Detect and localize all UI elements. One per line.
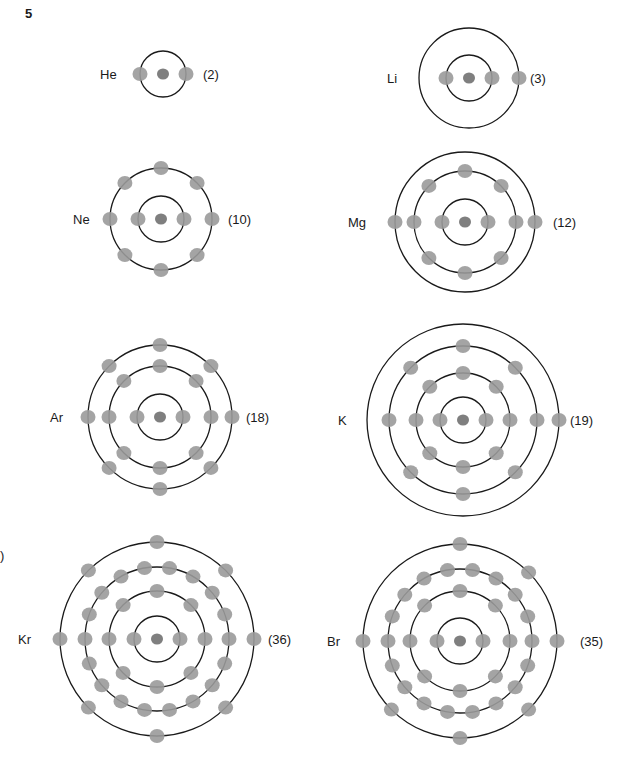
electron <box>508 361 523 375</box>
electron <box>131 212 146 226</box>
electron <box>82 657 97 671</box>
electron <box>103 212 118 226</box>
element-symbol: Mg <box>348 215 366 230</box>
electron <box>422 446 437 460</box>
electron <box>458 266 473 280</box>
electron <box>198 632 213 646</box>
electron <box>356 634 371 648</box>
electron <box>465 563 480 577</box>
electron <box>381 634 396 648</box>
electron-count: (19) <box>570 413 593 428</box>
electron-count: (18) <box>246 410 269 425</box>
electron <box>453 731 468 745</box>
electron <box>508 588 523 602</box>
electron <box>177 212 192 226</box>
electron <box>422 380 437 394</box>
electron <box>116 666 131 680</box>
electron <box>153 482 168 496</box>
electron <box>137 703 152 717</box>
atom-ar: Ar(18) <box>50 338 269 496</box>
element-symbol: K <box>338 413 347 428</box>
electron <box>204 410 219 424</box>
electron <box>150 729 165 743</box>
atom-kr: Kr(36) <box>18 535 291 743</box>
electron <box>525 634 540 648</box>
electron <box>552 413 567 427</box>
nucleus <box>457 415 469 426</box>
electron <box>403 634 418 648</box>
electron <box>153 359 168 373</box>
electron <box>217 657 232 671</box>
electron <box>154 161 169 175</box>
electron <box>407 215 422 229</box>
electron <box>186 694 201 708</box>
electron <box>453 584 468 598</box>
atom-br: Br(35) <box>327 537 603 745</box>
electron <box>509 215 524 229</box>
electron <box>384 703 399 717</box>
electron <box>403 465 418 479</box>
electron <box>488 669 503 683</box>
electron <box>430 634 445 648</box>
electron <box>433 413 448 427</box>
electron <box>150 584 165 598</box>
electron <box>479 413 494 427</box>
nucleus <box>459 217 471 228</box>
element-symbol: He <box>100 67 117 82</box>
electron <box>218 701 233 715</box>
electron <box>205 678 220 692</box>
electron <box>153 338 168 352</box>
electron <box>102 461 117 475</box>
electron <box>189 374 204 388</box>
electron-shell-diagram: 5 ) He(2) Li(3) Ne(10) Mg(12) Ar(18) K(1… <box>0 0 618 777</box>
electron <box>81 410 96 424</box>
electron-count: (10) <box>228 212 251 227</box>
electron <box>488 599 503 613</box>
electron <box>154 263 169 277</box>
electron <box>512 71 527 85</box>
electron <box>102 359 117 373</box>
electron <box>521 565 536 579</box>
electron <box>489 572 504 586</box>
electron <box>186 570 201 584</box>
electron <box>508 680 523 694</box>
electron <box>218 563 233 577</box>
electron <box>385 659 400 673</box>
electron <box>494 251 509 265</box>
electron <box>183 666 198 680</box>
atom-he: He(2) <box>100 51 219 97</box>
electron <box>382 413 397 427</box>
electron <box>456 460 471 474</box>
electron <box>476 634 491 648</box>
electron <box>127 632 142 646</box>
electron <box>150 680 165 694</box>
electron <box>403 361 418 375</box>
element-symbol: Ne <box>73 212 90 227</box>
electron <box>417 696 432 710</box>
electron <box>225 410 240 424</box>
electron-count: (12) <box>553 215 576 230</box>
electron <box>440 563 455 577</box>
electron <box>520 609 535 623</box>
electron <box>481 215 496 229</box>
electron <box>397 588 412 602</box>
electron <box>117 176 132 190</box>
figure-number: 5 <box>25 6 32 21</box>
nucleus <box>154 412 166 423</box>
electron <box>489 446 504 460</box>
electron <box>222 632 237 646</box>
electron <box>176 410 191 424</box>
electron <box>503 634 518 648</box>
electron <box>409 413 424 427</box>
electron <box>417 599 432 613</box>
electron <box>458 164 473 178</box>
element-symbol: Kr <box>18 632 32 647</box>
electron <box>94 678 109 692</box>
electron-count: (3) <box>530 71 546 86</box>
electron <box>183 598 198 612</box>
electron <box>550 634 565 648</box>
electron <box>162 561 177 575</box>
electron <box>102 632 117 646</box>
electron <box>94 586 109 600</box>
electron <box>205 212 220 226</box>
